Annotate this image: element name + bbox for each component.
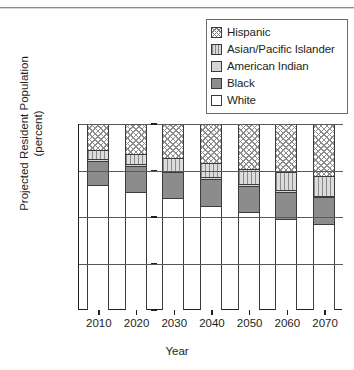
bar-segment-white-2050 [239, 212, 259, 310]
x-tick-mark-2020 [136, 310, 138, 315]
x-tick-mark-2050 [249, 310, 251, 315]
legend-label-american-indian: American Indian [227, 60, 309, 73]
medium-gray-swatch-icon [211, 78, 222, 89]
gridline-25 [79, 264, 343, 265]
legend-label-white: White [227, 94, 256, 107]
legend-item-black: Black [211, 75, 343, 92]
gridline-75 [79, 171, 343, 172]
y-tick-mark-50 [151, 216, 157, 218]
bar-segment-asian-2030 [163, 158, 183, 170]
bar-segment-asian-2070 [314, 176, 334, 196]
legend-item-hispanic: Hispanic [211, 24, 343, 41]
bar-segment-black-2010 [88, 161, 108, 185]
bar-segment-hispanic-2010 [88, 124, 108, 150]
legend-label-hispanic: Hispanic [227, 26, 270, 39]
gridline-50 [79, 217, 343, 218]
legend-item-american-indian: American Indian [211, 58, 343, 75]
y-axis-title: Projected Resident Population (percent) [18, 39, 45, 229]
white-swatch-icon [211, 95, 222, 106]
bar-segment-white-2010 [88, 185, 108, 310]
bar-segment-black-2040 [201, 179, 221, 206]
bar-segment-white-2030 [163, 198, 183, 310]
diagonal-hatch-swatch-icon [211, 27, 222, 38]
top-divider-rule [0, 7, 354, 9]
y-tick-mark-0 [151, 309, 157, 311]
x-tick-mark-2030 [174, 310, 176, 315]
x-tick-mark-2010 [98, 310, 100, 315]
x-tick-mark-2040 [211, 310, 213, 315]
bar-segment-asian-2060 [276, 172, 296, 190]
vertical-lines-swatch-icon [211, 44, 222, 55]
bar-segment-asian-2020 [126, 154, 146, 164]
bar-segment-white-2020 [126, 192, 146, 310]
x-axis-title: Year [0, 345, 354, 357]
bar-segment-asian-2010 [88, 150, 108, 159]
bar-segment-hispanic-2070 [314, 124, 334, 176]
bar-segment-hispanic-2050 [239, 124, 259, 169]
bar-segment-hispanic-2060 [276, 124, 296, 172]
bar-segment-black-2070 [314, 197, 334, 223]
gridline-100 [79, 124, 343, 125]
bar-segment-white-2040 [201, 206, 221, 310]
light-gray-swatch-icon [211, 61, 222, 72]
bar-segment-white-2070 [314, 224, 334, 310]
x-tick-mark-2070 [324, 310, 326, 315]
legend-item-white: White [211, 92, 343, 109]
bar-segment-black-2030 [163, 172, 183, 198]
plot-area: 02550751002010202020302040205020602070 [78, 124, 342, 310]
chart-legend: Hispanic Asian/Pacific Islander American… [206, 19, 348, 114]
x-tick-label-2070: 2070 [303, 317, 347, 329]
y-tick-mark-75 [151, 170, 157, 172]
y-tick-mark-25 [151, 263, 157, 265]
bar-segment-hispanic-2030 [163, 124, 183, 158]
bar-segment-hispanic-2020 [126, 124, 146, 154]
legend-label-asian-pacific-islander: Asian/Pacific Islander [227, 43, 335, 56]
legend-label-black: Black [227, 77, 255, 90]
y-tick-mark-100 [151, 123, 157, 125]
bar-segment-black-2060 [276, 192, 296, 219]
x-tick-mark-2060 [287, 310, 289, 315]
bar-segment-hispanic-2040 [201, 124, 221, 163]
bar-segment-black-2050 [239, 186, 259, 212]
legend-item-asian-pacific-islander: Asian/Pacific Islander [211, 41, 343, 58]
